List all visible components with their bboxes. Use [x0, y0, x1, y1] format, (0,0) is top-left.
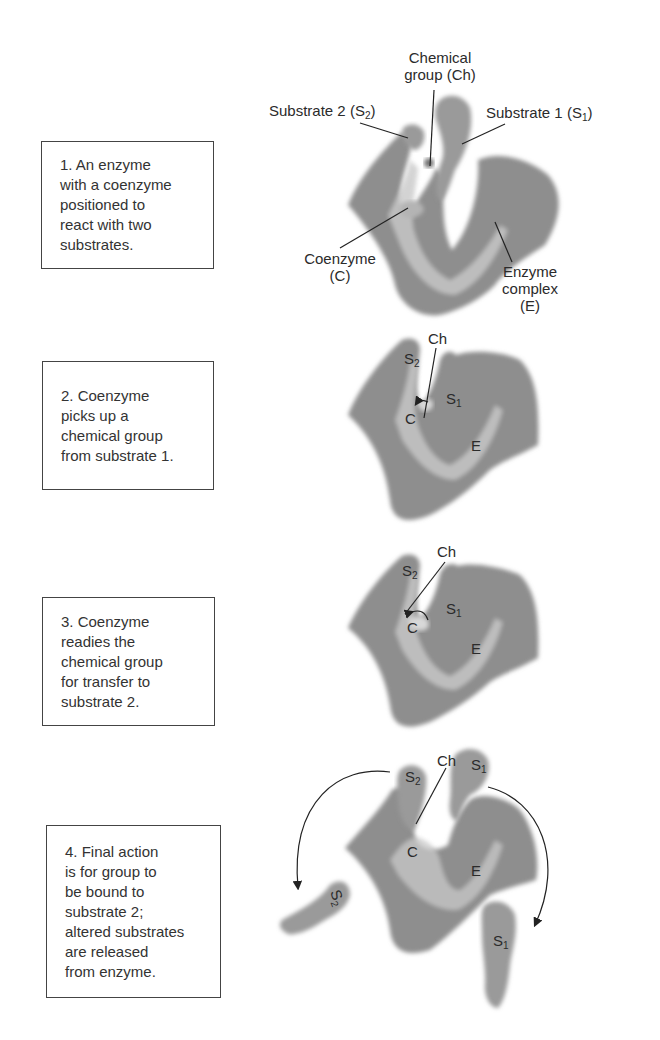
p3-label-c: C: [407, 619, 418, 636]
p2-label-c: C: [405, 410, 416, 427]
step-4-text: 4. Final action is for group to be bound…: [65, 842, 184, 982]
p4-label-ch: Ch: [437, 752, 456, 769]
p4-label-s2: S2: [405, 768, 421, 785]
step-1-box: 1. An enzyme with a coenzyme positioned …: [41, 141, 214, 269]
label-chemical-group: Chemical group (Ch): [395, 49, 485, 83]
label-coenzyme: Coenzyme (C): [290, 250, 390, 284]
p4-label-released-s1: S1: [493, 932, 509, 949]
p3-label-e: E: [471, 640, 481, 657]
p3-label-s2: S2: [402, 562, 418, 579]
p2-label-e: E: [471, 437, 481, 454]
panel2-enzyme: [348, 338, 538, 520]
label-substrate-1: Substrate 1 (S1): [486, 104, 592, 121]
step-2-box: 2. Coenzyme picks up a chemical group fr…: [42, 361, 214, 490]
p4-label-e: E: [471, 862, 481, 879]
p4-label-s1: S1: [471, 756, 487, 773]
p3-label-s1: S1: [446, 600, 462, 617]
panel3-enzyme: [348, 554, 538, 726]
step-4-box: 4. Final action is for group to be bound…: [46, 825, 221, 998]
p2-label-s2: S2: [404, 350, 420, 367]
step-1-text: 1. An enzyme with a coenzyme positioned …: [60, 155, 172, 255]
p2-label-s1: S1: [446, 390, 462, 407]
step-3-text: 3. Coenzyme readies the chemical group f…: [61, 612, 163, 712]
p2-label-ch: Ch: [428, 330, 447, 347]
p4-label-c: C: [407, 843, 418, 860]
panel4-enzyme: [280, 749, 537, 1008]
step-3-box: 3. Coenzyme readies the chemical group f…: [42, 597, 215, 726]
p3-label-ch: Ch: [437, 543, 456, 560]
step-2-text: 2. Coenzyme picks up a chemical group fr…: [61, 386, 174, 466]
label-enzyme-complex: Enzyme complex (E): [490, 263, 570, 314]
label-substrate-2: Substrate 2 (S2): [269, 102, 375, 119]
